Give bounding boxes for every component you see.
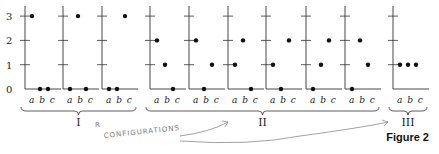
- x-axis-labels: a b c: [193, 95, 220, 105]
- panel: a b c: [223, 6, 264, 105]
- x-axis-labels: a b c: [29, 95, 56, 105]
- data-dot: [249, 87, 253, 91]
- data-dot: [68, 87, 72, 91]
- data-dot: [202, 87, 206, 91]
- panel: a b c: [20, 6, 61, 105]
- panel: a b c: [340, 6, 381, 105]
- panel: a b c: [301, 6, 342, 105]
- data-dot: [350, 87, 354, 91]
- panel: a b c: [145, 6, 186, 105]
- group-brace: [389, 107, 427, 115]
- data-dot: [279, 87, 283, 91]
- group-brace: [21, 107, 136, 115]
- panel: a b c: [58, 6, 99, 105]
- handwritten-annotation: CONFIGURATIONS: [103, 124, 180, 140]
- data-dot: [414, 62, 418, 66]
- y-tick-label: 1: [6, 60, 12, 71]
- configuration-diagram: 0123a b ca b ca b cIa b ca b ca b ca b c…: [0, 0, 439, 154]
- group-label: II: [258, 116, 267, 129]
- panel: a b c: [261, 6, 302, 105]
- data-dot: [358, 38, 362, 42]
- data-dot: [46, 87, 50, 91]
- arrow-to-II: [180, 122, 228, 136]
- x-axis-labels: a b c: [349, 95, 376, 105]
- panel: a b c: [184, 6, 225, 105]
- data-dot: [107, 87, 111, 91]
- group-label: III: [401, 116, 414, 129]
- data-dot: [30, 14, 34, 18]
- x-axis-labels: a b c: [270, 95, 297, 105]
- x-axis-labels: a b c: [310, 95, 337, 105]
- data-dot: [123, 14, 127, 18]
- data-dot: [406, 62, 410, 66]
- x-axis-labels: a b c: [154, 95, 181, 105]
- group-I: a b ca b ca b cI: [20, 6, 138, 129]
- data-dot: [327, 38, 331, 42]
- x-axis-labels: a b c: [232, 95, 259, 105]
- data-dot: [241, 38, 245, 42]
- data-dot: [155, 38, 159, 42]
- data-dot: [233, 62, 237, 66]
- data-dot: [210, 62, 214, 66]
- data-dot: [38, 87, 42, 91]
- group-brace: [146, 107, 379, 115]
- handwritten-mark: R: [95, 121, 101, 129]
- data-dot: [271, 62, 275, 66]
- y-tick-label: 3: [6, 11, 12, 22]
- x-axis-labels: a b c: [67, 95, 94, 105]
- data-dot: [398, 62, 402, 66]
- data-dot: [287, 38, 291, 42]
- data-dot: [76, 14, 80, 18]
- data-dot: [319, 62, 323, 66]
- x-axis-labels: a b c: [106, 95, 133, 105]
- data-dot: [115, 87, 119, 91]
- y-tick-label: 2: [6, 35, 12, 46]
- group-label: I: [76, 116, 80, 129]
- panel: a b c: [97, 6, 138, 105]
- group-II: a b ca b ca b ca b ca b ca b cII: [145, 6, 381, 129]
- data-dot: [311, 87, 315, 91]
- x-axis-labels: a b c: [397, 95, 424, 105]
- panel: a b c: [388, 6, 429, 105]
- figure-caption: Figure 2: [386, 131, 429, 143]
- data-dot: [194, 38, 198, 42]
- group-III: a b cIII: [388, 6, 429, 129]
- data-dot: [366, 62, 370, 66]
- arrow-to-III: [180, 122, 388, 143]
- data-dot: [163, 62, 167, 66]
- y-tick-label: 0: [6, 84, 12, 95]
- data-dot: [171, 87, 175, 91]
- data-dot: [84, 87, 88, 91]
